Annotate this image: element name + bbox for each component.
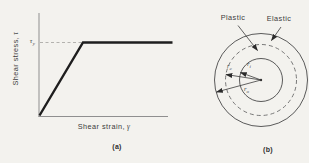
inner-radius-subscript: i bbox=[250, 63, 251, 68]
figure-canvas: Shear stress, τ Shear strain, γ τy (a) P… bbox=[0, 0, 309, 163]
elastic-region-label: Elastic bbox=[256, 15, 302, 22]
inner-radius-arrow bbox=[241, 73, 262, 81]
outer-radius-arrow bbox=[217, 80, 262, 92]
outer-radius-subscript: o bbox=[247, 88, 250, 93]
y-axis-label: Shear stress, τ bbox=[12, 29, 19, 89]
yield-stress-subscript: y bbox=[33, 40, 35, 45]
yield-stress-label: τy bbox=[20, 38, 35, 46]
plastic-region-label: Plastic bbox=[210, 14, 256, 21]
inner-radius-label: ri bbox=[247, 61, 251, 69]
boundary-radius-arrow bbox=[226, 75, 261, 81]
x-axis-label-text: Shear strain, bbox=[78, 122, 125, 131]
y-axis-label-text: Shear stress, bbox=[11, 37, 20, 86]
gamma-symbol: γ bbox=[127, 122, 130, 131]
outer-radius-label: ro bbox=[244, 86, 249, 94]
boundary-radius-label: rc bbox=[227, 63, 232, 71]
elastic-leader-arrow bbox=[272, 27, 282, 41]
x-axis-label: Shear strain, γ bbox=[69, 123, 139, 130]
elastic-perfectly-plastic-curve bbox=[40, 43, 173, 116]
figure-linework bbox=[0, 0, 309, 163]
tau-symbol: τ bbox=[11, 32, 20, 35]
panel-b-caption: (b) bbox=[254, 146, 282, 153]
panel-a-caption: (a) bbox=[103, 143, 131, 150]
boundary-radius-subscript: c bbox=[230, 65, 232, 70]
